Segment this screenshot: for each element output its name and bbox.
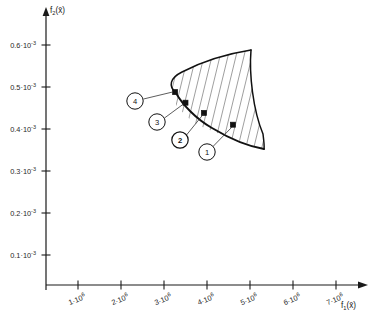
region-upper-left-edge xyxy=(171,50,251,93)
x-axis-title: f1(x̄) xyxy=(341,301,356,311)
solution-marker-4[interactable] xyxy=(173,90,178,95)
x-tick-label-3: 3·106 xyxy=(153,291,173,307)
leader-line-3 xyxy=(165,104,184,118)
annotation-3-label: 3 xyxy=(155,118,159,127)
x-axis-arrow xyxy=(358,282,368,289)
annotation-circle-2[interactable]: 2 xyxy=(172,132,188,148)
x-tick-label-2: 2·106 xyxy=(110,291,130,307)
y-axis-tick-labels: 0.1·10-3 0.2·10-3 0.3·10-3 0.4·10-3 0.5·… xyxy=(10,40,36,260)
y-tick-label-5: 0.5·10-3 xyxy=(10,82,36,92)
annotation-4-label: 4 xyxy=(133,97,137,106)
annotation-circle-4[interactable]: 4 xyxy=(127,93,143,109)
leader-line-4 xyxy=(144,92,173,99)
solution-marker-3[interactable] xyxy=(183,100,188,105)
x-tick-label-5: 5·106 xyxy=(239,291,259,307)
x-tick-label-4: 4·106 xyxy=(196,291,216,307)
y-axis-title: f2(x̄) xyxy=(50,6,65,16)
annotation-labels: 4 3 2 1 xyxy=(127,93,215,160)
y-axis-arrow xyxy=(43,7,50,16)
x-tick-label-1: 1·106 xyxy=(67,291,87,307)
pareto-front-chart: 0.1·10-3 0.2·10-3 0.3·10-3 0.4·10-3 0.5·… xyxy=(0,0,380,319)
y-tick-label-3: 0.3·10-3 xyxy=(10,166,36,176)
y-tick-label-1: 0.1·10-3 xyxy=(10,250,36,260)
x-tick-label-6: 6·106 xyxy=(282,291,302,307)
y-tick-label-4: 0.4·10-3 xyxy=(10,124,36,134)
annotation-2-label: 2 xyxy=(178,136,182,145)
y-tick-label-6: 0.6·10-3 xyxy=(10,40,36,50)
solution-marker-1[interactable] xyxy=(230,122,235,127)
x-axis-tick-labels: 1·106 2·106 3·106 4·106 5·106 6·106 7·10… xyxy=(67,291,345,307)
solution-marker-2[interactable] xyxy=(201,110,206,115)
annotation-circle-3[interactable]: 3 xyxy=(149,114,165,130)
annotation-1-label: 1 xyxy=(205,148,209,157)
annotation-circle-1[interactable]: 1 xyxy=(199,144,215,160)
y-tick-label-2: 0.2·10-3 xyxy=(10,208,36,218)
